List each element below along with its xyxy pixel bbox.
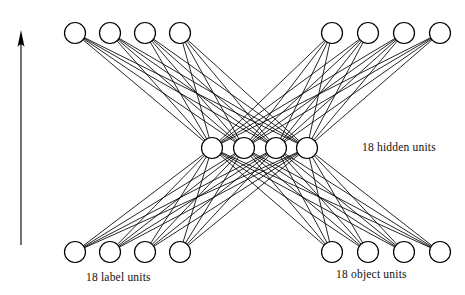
connection-edge (284, 155, 396, 246)
connection-edge (183, 158, 209, 242)
connection-edge (253, 38, 431, 142)
connection-edge (252, 40, 361, 141)
connection-edge (221, 153, 395, 247)
connection-edge (284, 40, 396, 141)
connection-edge (187, 156, 269, 245)
connection-edge (251, 156, 325, 244)
unit-node-top-right-4 (430, 23, 451, 44)
connection-edge (283, 41, 362, 140)
connection-edge (283, 156, 361, 244)
connection-edge (221, 38, 395, 142)
connection-edge (152, 41, 237, 140)
connection-edge (250, 41, 325, 139)
connection-edge (253, 153, 430, 247)
connection-edge (152, 156, 237, 245)
figure-canvas: 18 hidden units 18 label units 18 object… (0, 0, 465, 295)
connection-edge (285, 154, 431, 247)
unit-node-bottom-right-3 (394, 242, 415, 263)
unit-node-top-left-1 (65, 23, 86, 44)
unit-node-bottom-left-2 (100, 242, 121, 263)
upward-direction-arrow (18, 30, 25, 245)
connection-edge (220, 39, 359, 142)
connection-edge (221, 154, 360, 246)
connection-edge (84, 153, 266, 247)
unit-node-top-right-3 (394, 23, 415, 44)
connection-edge (84, 38, 267, 143)
unit-node-bottom-left-1 (65, 242, 86, 263)
connection-edge (221, 38, 430, 144)
connection-edge (153, 40, 268, 141)
unit-node-top-left-4 (170, 23, 191, 44)
unit-node-bottom-right-2 (358, 242, 379, 263)
connection-edge (83, 154, 203, 245)
connection-edge (84, 39, 236, 142)
arrow-head (18, 30, 25, 47)
connection-edge (183, 43, 209, 138)
connection-edge (119, 153, 297, 247)
hidden-units-caption: 18 hidden units (362, 141, 436, 153)
unit-node-top-left-2 (100, 23, 121, 44)
unit-node-bottom-right-4 (430, 242, 451, 263)
object-units-caption: 18 object units (336, 268, 407, 280)
unit-node-hidden-2 (234, 138, 255, 159)
unit-node-top-right-2 (358, 23, 379, 44)
connection-edge (119, 38, 298, 142)
label-units-caption: 18 label units (86, 271, 151, 283)
unit-node-bottom-left-4 (170, 242, 191, 263)
unit-node-top-left-3 (135, 23, 156, 44)
unit-node-hidden-1 (202, 138, 223, 159)
unit-node-top-right-1 (322, 23, 343, 44)
unit-node-bottom-left-3 (135, 242, 156, 263)
connection-edge (118, 40, 236, 141)
unit-node-hidden-4 (297, 138, 318, 159)
unit-node-bottom-right-1 (322, 242, 343, 263)
connection-edge (252, 155, 360, 246)
connection-edge (222, 152, 431, 247)
unit-node-hidden-3 (266, 138, 287, 159)
